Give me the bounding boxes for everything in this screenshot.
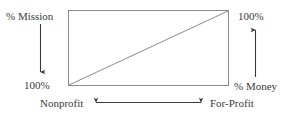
money-axis-top-label: 100% xyxy=(238,10,264,22)
mission-axis-bottom-label: 100% xyxy=(24,79,50,91)
diagram-canvas: % Mission 100% 100% % Money Nonprofit Fo… xyxy=(0,0,294,120)
money-axis-bottom-label: % Money xyxy=(234,80,277,92)
continuum-right-label: For-Profit xyxy=(210,97,254,109)
mission-axis-top-label: % Mission xyxy=(6,10,53,22)
continuum-left-label: Nonprofit xyxy=(40,97,83,109)
plot-rectangle xyxy=(68,10,229,86)
